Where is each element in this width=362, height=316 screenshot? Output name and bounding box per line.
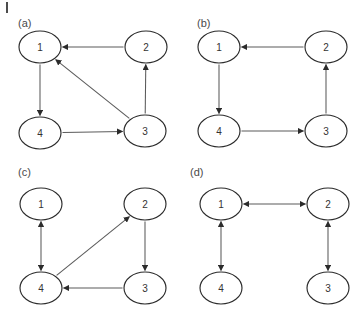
panel-d-label: (d) (190, 166, 203, 178)
node-2: 2 (305, 31, 347, 63)
edge-4-to-3 (62, 131, 122, 132)
node-1-label: 1 (37, 42, 43, 53)
node-1: 1 (198, 31, 240, 63)
node-4-label: 4 (216, 126, 222, 137)
edge-3-to-2 (145, 65, 146, 114)
node-1-label: 1 (216, 42, 222, 53)
panel-b-nodes: 1234 (198, 31, 347, 147)
node-3-label: 3 (325, 283, 331, 294)
panel-b-graph: (b) 1234 (181, 0, 362, 158)
edge-4-to-2 (57, 217, 130, 276)
node-3-label: 3 (142, 126, 148, 137)
node-1-label: 1 (218, 199, 224, 210)
node-3: 3 (124, 115, 166, 147)
panel-b: (b) 1234 (181, 0, 362, 158)
node-1: 1 (200, 188, 242, 220)
figure-root: (a) 1234 (b) 1234 (c) 1234 (0, 0, 362, 316)
panel-c: (c) 1234 (0, 158, 181, 316)
node-2: 2 (307, 188, 349, 220)
node-4-label: 4 (218, 283, 224, 294)
node-4: 4 (19, 117, 61, 149)
node-3: 3 (305, 115, 347, 147)
node-1-label: 1 (38, 199, 44, 210)
panel-c-graph: (c) 1234 (0, 158, 181, 316)
panel-d: (d) 1234 (181, 158, 362, 316)
node-2-label: 2 (323, 42, 329, 53)
panel-c-label: (c) (18, 166, 31, 178)
node-3-label: 3 (142, 283, 148, 294)
panel-b-edges (219, 47, 326, 131)
node-4: 4 (198, 115, 240, 147)
panel-a-graph: (a) 1234 (0, 0, 181, 158)
node-1: 1 (19, 31, 61, 63)
node-4: 4 (20, 272, 62, 304)
node-4-label: 4 (38, 283, 44, 294)
node-4: 4 (200, 272, 242, 304)
node-1: 1 (20, 188, 62, 220)
edge-3-to-1 (56, 60, 130, 119)
node-4-label: 4 (37, 128, 43, 139)
node-2: 2 (125, 31, 167, 63)
panel-a-label: (a) (18, 17, 31, 29)
node-2: 2 (124, 188, 166, 220)
panel-d-graph: (d) 1234 (181, 158, 362, 316)
panel-a: (a) 1234 (0, 0, 181, 158)
node-2-label: 2 (143, 42, 149, 53)
panel-b-label: (b) (197, 17, 210, 29)
node-2-label: 2 (325, 199, 331, 210)
node-3-label: 3 (323, 126, 329, 137)
node-2-label: 2 (142, 199, 148, 210)
node-3: 3 (307, 272, 349, 304)
node-3: 3 (124, 272, 166, 304)
panel-d-nodes: 1234 (200, 188, 349, 304)
